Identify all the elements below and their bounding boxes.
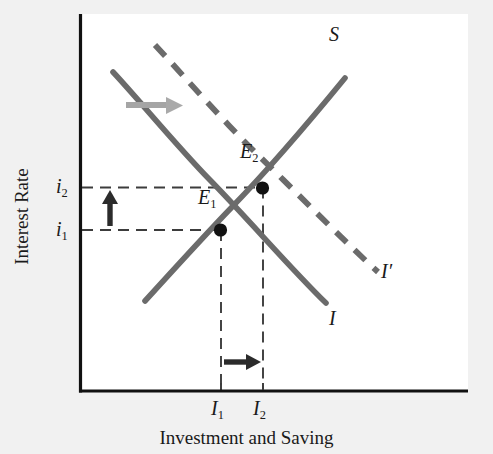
point-label-E1: E1 xyxy=(198,187,216,210)
x-tick-label-I1: I1 xyxy=(211,398,224,421)
point-E1-marker xyxy=(214,223,227,236)
y-tick-label-i1: i1 xyxy=(56,219,68,242)
curve-label-saving: S xyxy=(329,24,339,44)
y-axis-title: Interest Rate xyxy=(12,127,31,307)
y-tick-label-i2: i2 xyxy=(56,176,68,199)
x-tick-label-I2: I2 xyxy=(253,398,266,421)
curve-label-investment: I xyxy=(329,308,336,328)
curve-label-investment-shifted: I′ xyxy=(381,261,392,281)
point-label-E2: E2 xyxy=(240,141,258,164)
x-axis-title: Investment and Saving xyxy=(0,428,493,447)
point-E2-marker xyxy=(256,181,269,194)
plot-area xyxy=(79,14,468,392)
interest-rate-investment-saving-chart xyxy=(0,0,493,454)
